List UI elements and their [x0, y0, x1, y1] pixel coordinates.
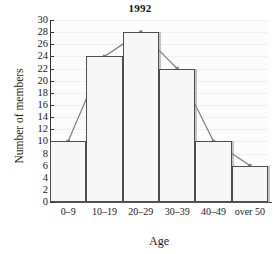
x-tick-label: 30–39: [159, 206, 195, 217]
y-tick-label: 2: [26, 185, 48, 195]
y-tick-mark: [50, 202, 54, 203]
x-tick-label: 20–29: [123, 206, 159, 217]
histogram-bar: [50, 141, 86, 202]
y-tick-mark: [50, 117, 54, 118]
x-tick-label: 0–9: [50, 206, 86, 217]
y-tick-label: 12: [26, 124, 48, 134]
y-tick-label: 10: [26, 136, 48, 146]
y-tick-mark: [50, 105, 54, 106]
y-tick-mark: [50, 93, 54, 94]
x-tick-label: over 50: [232, 206, 268, 217]
y-tick-mark: [50, 69, 54, 70]
y-tick-label: 20: [26, 76, 48, 86]
chart-container: 1992 Number of members 02468101214161820…: [0, 0, 280, 254]
histogram-bar: [159, 69, 195, 202]
y-tick-mark: [50, 129, 54, 130]
y-tick-mark: [50, 81, 54, 82]
y-axis-tick-labels: 024681012141618202224262830: [22, 0, 48, 254]
y-tick-label: 16: [26, 100, 48, 110]
x-axis-line: [50, 202, 272, 203]
y-tick-label: 6: [26, 161, 48, 171]
gridline: [50, 44, 268, 45]
gridline: [50, 20, 268, 21]
y-tick-label: 28: [26, 27, 48, 37]
gridline: [50, 32, 268, 33]
gridline: [50, 56, 268, 57]
y-tick-label: 26: [26, 39, 48, 49]
y-tick-mark: [50, 32, 54, 33]
y-tick-label: 24: [26, 51, 48, 61]
y-tick-label: 30: [26, 15, 48, 25]
y-tick-label: 8: [26, 149, 48, 159]
x-axis-label: Age: [50, 234, 268, 249]
y-tick-label: 14: [26, 112, 48, 122]
y-tick-label: 22: [26, 64, 48, 74]
x-tick-label: 40–49: [195, 206, 231, 217]
y-tick-label: 4: [26, 173, 48, 183]
y-tick-mark: [50, 56, 54, 57]
histogram-bar: [195, 141, 231, 202]
y-tick-mark: [50, 20, 54, 21]
histogram-bar: [86, 56, 122, 202]
y-tick-label: 0: [26, 197, 48, 207]
y-tick-mark: [50, 44, 54, 45]
histogram-bar: [123, 32, 159, 202]
histogram-bar: [232, 166, 268, 202]
y-tick-label: 18: [26, 88, 48, 98]
x-tick-label: 10–19: [86, 206, 122, 217]
